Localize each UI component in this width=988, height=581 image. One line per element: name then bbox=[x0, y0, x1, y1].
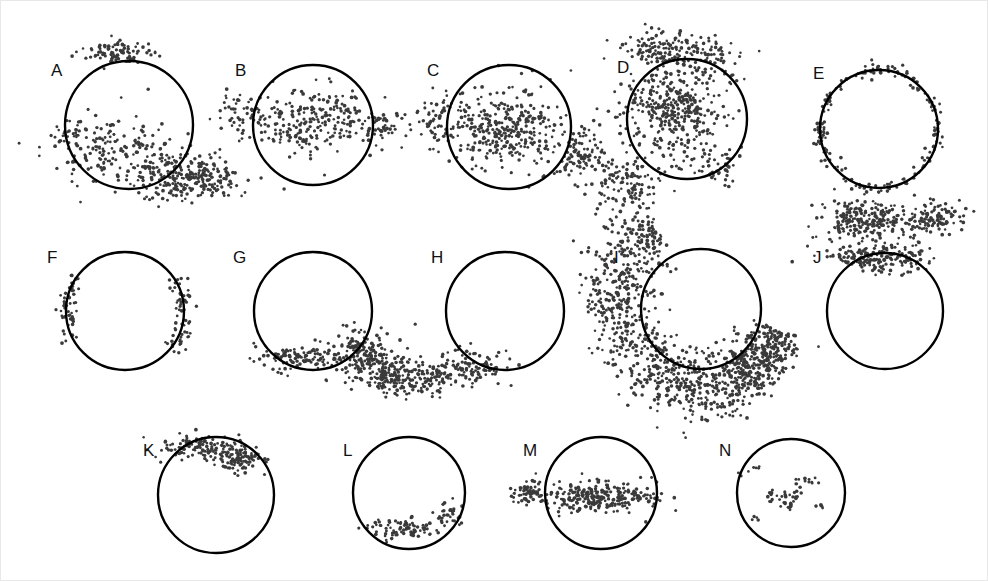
data-point bbox=[84, 128, 88, 132]
data-point bbox=[684, 111, 688, 115]
data-point bbox=[72, 317, 75, 320]
data-point bbox=[740, 360, 743, 363]
data-point bbox=[603, 361, 606, 364]
data-point bbox=[682, 103, 685, 106]
data-point bbox=[618, 313, 621, 316]
data-point bbox=[532, 489, 535, 492]
data-point bbox=[713, 158, 716, 161]
data-point bbox=[431, 395, 434, 398]
data-point bbox=[789, 504, 792, 507]
data-point bbox=[572, 143, 576, 147]
data-point bbox=[402, 528, 406, 532]
data-point bbox=[642, 103, 645, 106]
data-point bbox=[612, 358, 615, 361]
data-point bbox=[577, 160, 580, 163]
data-point bbox=[489, 92, 492, 95]
data-point bbox=[633, 135, 636, 138]
data-point bbox=[471, 146, 475, 150]
data-point bbox=[923, 220, 926, 223]
data-point bbox=[526, 119, 530, 123]
data-point bbox=[840, 168, 843, 171]
data-point bbox=[766, 332, 769, 335]
data-point bbox=[231, 124, 234, 127]
data-point bbox=[651, 505, 654, 508]
data-point bbox=[626, 404, 630, 408]
data-point bbox=[315, 137, 318, 140]
data-point bbox=[952, 222, 955, 225]
data-point bbox=[917, 241, 921, 245]
data-point bbox=[598, 498, 601, 501]
data-point bbox=[557, 510, 560, 513]
data-point bbox=[77, 287, 80, 290]
data-point bbox=[232, 98, 235, 101]
data-point bbox=[487, 131, 490, 134]
data-point bbox=[71, 180, 74, 183]
data-point bbox=[457, 109, 460, 112]
data-point bbox=[593, 307, 596, 310]
panel-boundary-circle bbox=[66, 252, 184, 370]
data-point bbox=[446, 104, 449, 107]
data-point bbox=[782, 371, 785, 374]
data-point bbox=[125, 174, 128, 177]
data-point bbox=[750, 394, 754, 398]
data-point bbox=[678, 54, 681, 57]
data-point bbox=[646, 215, 650, 219]
data-point bbox=[602, 169, 606, 173]
data-point bbox=[684, 417, 687, 420]
data-point bbox=[609, 273, 612, 276]
data-point bbox=[717, 162, 720, 165]
data-point bbox=[783, 490, 786, 493]
data-point bbox=[695, 111, 699, 115]
data-point bbox=[677, 98, 681, 102]
data-point bbox=[685, 378, 689, 382]
data-point bbox=[296, 119, 299, 122]
data-point bbox=[683, 357, 686, 360]
data-point bbox=[54, 136, 57, 139]
data-point bbox=[630, 332, 633, 335]
data-point bbox=[235, 102, 238, 105]
data-point bbox=[688, 388, 691, 391]
data-point bbox=[238, 140, 241, 143]
data-point bbox=[652, 218, 655, 221]
data-point bbox=[558, 507, 561, 510]
data-point bbox=[633, 262, 636, 265]
data-point bbox=[874, 274, 877, 277]
data-point bbox=[704, 68, 708, 72]
data-point bbox=[376, 377, 379, 380]
data-point bbox=[774, 366, 777, 369]
data-point bbox=[132, 56, 136, 60]
data-point bbox=[360, 329, 363, 332]
data-point bbox=[579, 172, 582, 175]
data-point bbox=[621, 270, 624, 273]
data-point bbox=[635, 487, 639, 491]
data-point bbox=[121, 44, 124, 47]
data-point bbox=[379, 524, 382, 527]
panel-n: N bbox=[719, 439, 845, 547]
data-point bbox=[644, 323, 648, 327]
data-point bbox=[743, 357, 746, 360]
data-point bbox=[304, 139, 307, 142]
data-point bbox=[913, 220, 916, 223]
data-point bbox=[607, 167, 610, 170]
data-point bbox=[671, 47, 674, 50]
data-point bbox=[698, 386, 701, 389]
data-point bbox=[557, 142, 560, 145]
data-point bbox=[940, 233, 944, 237]
data-point bbox=[289, 349, 292, 352]
data-point bbox=[618, 393, 621, 396]
panel-label-d: D bbox=[617, 58, 629, 77]
data-point bbox=[556, 491, 560, 495]
data-point bbox=[396, 355, 399, 358]
data-point bbox=[650, 151, 653, 154]
data-point bbox=[724, 178, 727, 181]
data-point bbox=[150, 178, 154, 182]
data-point bbox=[857, 251, 860, 254]
data-point bbox=[79, 147, 83, 151]
data-point bbox=[838, 248, 842, 252]
data-point bbox=[436, 368, 439, 371]
data-point bbox=[722, 105, 726, 109]
data-point bbox=[655, 57, 659, 61]
data-point bbox=[640, 183, 643, 186]
data-point bbox=[838, 254, 841, 257]
data-point bbox=[653, 398, 657, 402]
